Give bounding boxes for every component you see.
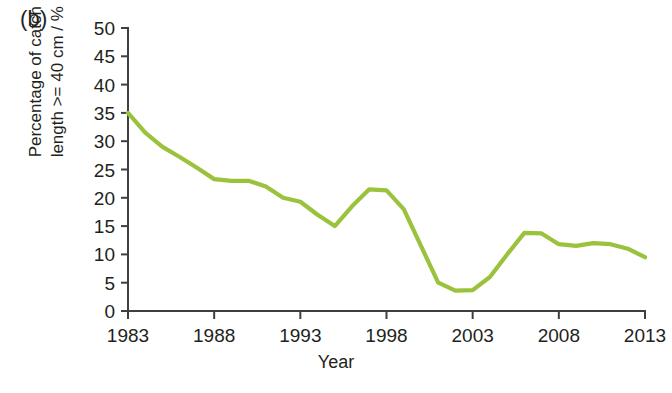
x-tick-label: 1993 — [279, 325, 321, 346]
y-axis: 05101520253035404550 — [94, 18, 128, 322]
x-tick-label: 2008 — [538, 325, 580, 346]
y-tick-label: 20 — [94, 188, 115, 209]
y-tick-label: 40 — [94, 75, 115, 96]
figure-panel-b: (b) Percentage of catch length >= 40 cm … — [0, 0, 672, 393]
x-tick-label: 1988 — [193, 325, 235, 346]
x-tick-label: 2003 — [452, 325, 494, 346]
line-chart-plot: 05101520253035404550 1983198819931998200… — [0, 0, 672, 393]
x-tick-label: 1998 — [365, 325, 407, 346]
x-axis: 1983198819931998200320082013 — [107, 311, 666, 346]
y-tick-label: 0 — [104, 301, 115, 322]
y-tick-label: 30 — [94, 131, 115, 152]
y-tick-label: 50 — [94, 18, 115, 39]
y-tick-label: 35 — [94, 103, 115, 124]
x-tick-label: 2013 — [624, 325, 666, 346]
data-series-group — [128, 113, 645, 291]
y-tick-label: 5 — [104, 273, 115, 294]
data-series-line-0 — [128, 113, 645, 291]
y-tick-label: 15 — [94, 216, 115, 237]
y-tick-label: 45 — [94, 46, 115, 67]
y-tick-label: 25 — [94, 160, 115, 181]
y-tick-label: 10 — [94, 244, 115, 265]
x-tick-label: 1983 — [107, 325, 149, 346]
